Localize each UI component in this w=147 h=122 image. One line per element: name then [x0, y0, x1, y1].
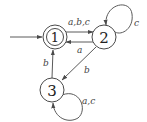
- edge-3-to-1: [52, 50, 53, 78]
- state-3: 3: [40, 78, 64, 102]
- state-1: 1: [43, 25, 67, 49]
- edge-label-2-to-1: a: [77, 45, 82, 55]
- state-3-label: 3: [47, 82, 57, 100]
- edge-label-2-loop: c: [134, 18, 139, 28]
- state-1-label: 1: [51, 30, 59, 45]
- automaton-diagram: a,b,c a c b b a,c 1 2 3: [0, 0, 147, 122]
- edge-label-1-to-2: a,b,c: [68, 17, 90, 27]
- edge-label-2-to-3: b: [84, 65, 90, 75]
- state-2-label: 2: [99, 29, 109, 47]
- edge-label-3-to-1: b: [43, 58, 49, 68]
- edge-label-3-loop: a,c: [82, 96, 95, 106]
- state-2: 2: [92, 25, 116, 49]
